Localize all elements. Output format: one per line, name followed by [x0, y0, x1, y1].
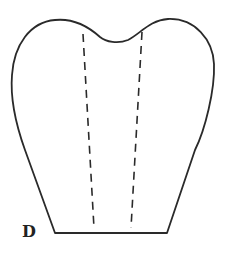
- figure-label: D: [22, 224, 36, 240]
- pattern-outline: [12, 19, 214, 233]
- left-dashed-guide-line: [83, 34, 94, 228]
- right-dashed-guide-line: [131, 32, 142, 228]
